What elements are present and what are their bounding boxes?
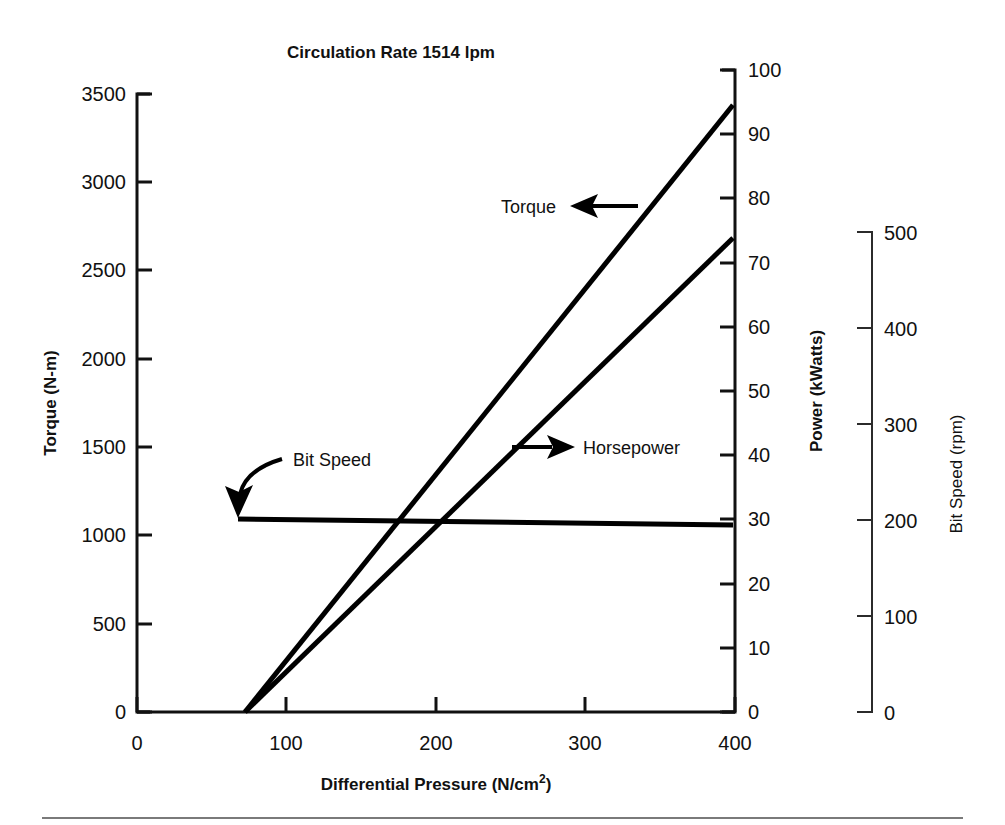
- bitspeed-tick-label-100: 100: [884, 606, 917, 628]
- pressure-axis: 0 100 200 300 400 Differential Pressure …: [131, 697, 751, 794]
- bitspeed-tick-label-300: 300: [884, 414, 917, 436]
- power-tick-label-0: 0: [748, 701, 759, 723]
- bitspeed-callout-label: Bit Speed: [293, 450, 371, 470]
- torque-tick-label-2000: 2000: [82, 348, 127, 370]
- pressure-axis-title-tail: ): [546, 775, 552, 794]
- pressure-tick-label-400: 400: [718, 732, 751, 754]
- bitspeed-callout-arrowhead: [225, 485, 253, 518]
- pressure-tick-label-100: 100: [269, 732, 302, 754]
- pressure-axis-title-base: Differential Pressure (N/cm: [321, 775, 539, 794]
- series-torque: [245, 105, 733, 712]
- bitspeed-tick-label-500: 500: [884, 222, 917, 244]
- torque-axis-title: Torque (N-m): [41, 350, 60, 455]
- chart-canvas: Circulation Rate 1514 lpm 3500 3000 2500…: [0, 0, 1005, 825]
- series-horsepower: [245, 238, 733, 712]
- chart-title: Circulation Rate 1514 lpm: [287, 43, 495, 62]
- power-tick-label-30: 30: [748, 508, 770, 530]
- bitspeed-axis: 500 400 300 200 100 0 Bit Speed (rpm): [857, 222, 966, 724]
- torque-tick-label-1500: 1500: [82, 436, 127, 458]
- torque-axis: 3500 3000 2500 2000 1500 1000 500 0 Torq…: [41, 83, 152, 723]
- chart-figure: Circulation Rate 1514 lpm 3500 3000 2500…: [0, 0, 1005, 825]
- bitspeed-tick-label-400: 400: [884, 318, 917, 340]
- torque-tick-label-3500: 3500: [82, 83, 127, 105]
- power-tick-label-60: 60: [748, 316, 770, 338]
- torque-tick-label-500: 500: [93, 613, 126, 635]
- torque-tick-label-3000: 3000: [82, 171, 127, 193]
- power-tick-label-40: 40: [748, 444, 770, 466]
- torque-callout: Torque: [501, 194, 638, 218]
- bitspeed-tick-label-0: 0: [884, 702, 895, 724]
- pressure-tick-label-300: 300: [568, 732, 601, 754]
- torque-tick-label-1000: 1000: [82, 524, 127, 546]
- power-tick-label-80: 80: [748, 187, 770, 209]
- bitspeed-axis-title: Bit Speed (rpm): [947, 414, 966, 533]
- horsepower-callout: Horsepower: [512, 435, 680, 459]
- series-bit-speed: [238, 519, 733, 525]
- power-tick-label-90: 90: [748, 123, 770, 145]
- power-tick-label-20: 20: [748, 573, 770, 595]
- power-tick-label-100: 100: [748, 59, 781, 81]
- power-tick-label-70: 70: [748, 252, 770, 274]
- power-axis: 100 90 80 70 60 50 40 30 20 10 0 Power (…: [720, 59, 826, 723]
- horsepower-callout-label: Horsepower: [583, 438, 680, 458]
- pressure-axis-title: Differential Pressure (N/cm2): [321, 772, 552, 794]
- torque-callout-label: Torque: [501, 197, 556, 217]
- power-tick-label-50: 50: [748, 380, 770, 402]
- pressure-tick-label-200: 200: [419, 732, 452, 754]
- bitspeed-callout: Bit Speed: [225, 450, 371, 518]
- torque-tick-label-0: 0: [115, 701, 126, 723]
- pressure-tick-label-0: 0: [131, 732, 142, 754]
- torque-tick-label-2500: 2500: [82, 259, 127, 281]
- power-axis-title: Power (kWatts): [807, 330, 826, 452]
- power-tick-label-10: 10: [748, 637, 770, 659]
- bitspeed-tick-label-200: 200: [884, 510, 917, 532]
